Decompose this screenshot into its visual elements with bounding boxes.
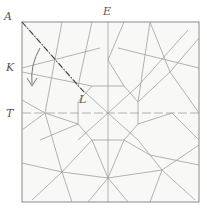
label-a: A bbox=[4, 11, 12, 22]
label-k: K bbox=[6, 62, 14, 73]
label-e: E bbox=[103, 6, 111, 17]
label-t: T bbox=[6, 108, 13, 119]
label-l: L bbox=[79, 94, 86, 105]
paper-square bbox=[22, 22, 199, 202]
crease-pattern-diagram: A E K T L bbox=[0, 0, 207, 212]
crease-pattern-svg bbox=[0, 0, 207, 212]
